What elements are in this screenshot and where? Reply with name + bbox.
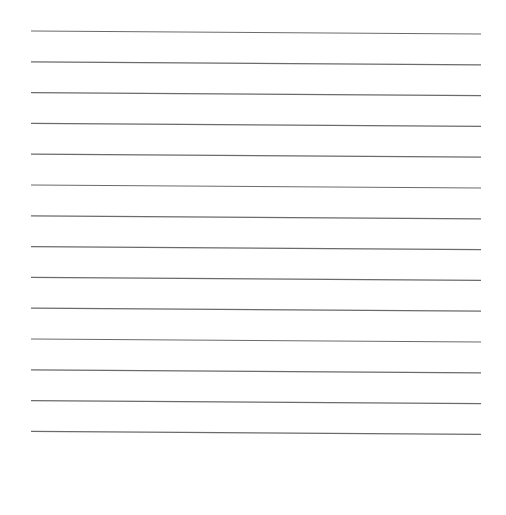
lined-paper <box>0 0 506 515</box>
ruled-line <box>31 185 481 188</box>
ruled-line <box>31 62 481 65</box>
ruled-line <box>31 277 481 280</box>
ruled-line <box>31 370 481 373</box>
ruled-line <box>31 123 481 126</box>
ruled-line <box>31 247 481 250</box>
ruled-line <box>31 401 481 404</box>
ruled-line <box>31 431 481 434</box>
ruled-line <box>31 31 481 34</box>
ruled-line <box>31 93 481 96</box>
ruled-line <box>31 308 481 311</box>
ruled-line <box>31 339 481 342</box>
ruled-line <box>31 216 481 219</box>
ruled-line <box>31 154 481 157</box>
